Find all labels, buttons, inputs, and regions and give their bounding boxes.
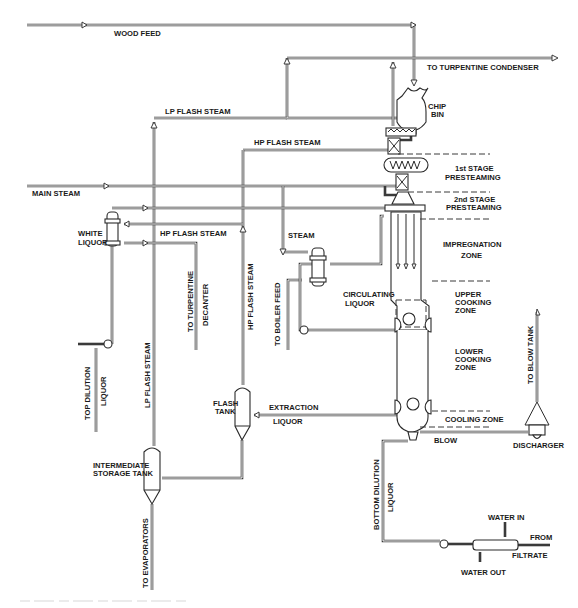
label-white-liquor-2: LIQUOR (78, 238, 108, 247)
label-lower-cooking-3: ZONE (455, 363, 476, 372)
label-lp-flash-steam-vertical: LP FLASH STEAM (143, 342, 152, 408)
label-circulating-1: CIRCULATING (343, 290, 395, 299)
label-impregnation-1: IMPREGNATION (443, 240, 502, 249)
flash-tank (235, 388, 250, 440)
label-circulating-2: LIQUOR (345, 299, 375, 308)
label-to-boiler-feed: TO BOILER FEED (273, 282, 282, 346)
label-discharger: DISCHARGER (513, 441, 565, 450)
label-steam: STEAM (288, 231, 315, 240)
label-bottom-dilution-2: LIQUOR (386, 482, 395, 512)
label-blow: BLOW (434, 436, 458, 445)
label-filtrate: FILTRATE (512, 551, 548, 560)
label-to-evaporators: TO EVAPORATORS (141, 518, 150, 588)
label-to-turpentine-decanter-2: DECANTER (201, 283, 210, 326)
label-main-steam: MAIN STEAM (32, 189, 80, 198)
digester (385, 205, 431, 440)
label-from: FROM (530, 533, 552, 542)
label-hp-flash-steam-mid: HP FLASH STEAM (160, 229, 227, 238)
label-top-dilution-1: TOP DILUTION (83, 367, 92, 420)
label-to-blow-tank: TO BLOW TANK (526, 325, 535, 384)
label-flash-tank-2: TANK (215, 407, 236, 416)
label-wood-feed: WOOD FEED (114, 29, 161, 38)
label-hp-flash-steam-vertical: HP FLASH STEAM (246, 263, 255, 330)
label-cooling-zone: COOLING ZONE (445, 415, 504, 424)
label-first-stage-1: 1st STAGE (455, 164, 494, 173)
label-impregnation-2: ZONE (461, 251, 482, 260)
label-to-turpentine-decanter-1: TO TURPENTINE (186, 271, 195, 332)
label-water-in: WATER IN (488, 513, 525, 522)
label-white-liquor-1: WHITE (78, 229, 102, 238)
label-bottom-dilution-1: BOTTOM DILUTION (372, 459, 381, 530)
label-top-dilution-2: LIQUOR (99, 376, 108, 406)
label-extraction-1: EXTRACTION (269, 403, 318, 412)
label-water-out: WATER OUT (461, 568, 506, 577)
label-lp-flash-steam-top: LP FLASH STEAM (165, 107, 231, 116)
label-hp-flash-steam-top: HP FLASH STEAM (254, 138, 321, 147)
circulation-heater (300, 248, 326, 334)
discharger (525, 402, 549, 439)
label-upper-cooking-3: ZONE (455, 306, 476, 315)
label-second-stage-2: PRESTEAMING (446, 203, 502, 212)
label-first-stage-2: PRESTEAMING (445, 173, 501, 182)
label-extraction-2: LIQUOR (273, 417, 303, 426)
digester-flow-diagram: WOOD FEED TO TURPENTINE CONDENSER CHIP B… (0, 0, 578, 608)
label-intermediate-2: STORAGE TANK (93, 469, 154, 478)
label-to-turpentine-condenser: TO TURPENTINE CONDENSER (427, 63, 539, 72)
label-chip-bin-2: BIN (431, 110, 444, 119)
